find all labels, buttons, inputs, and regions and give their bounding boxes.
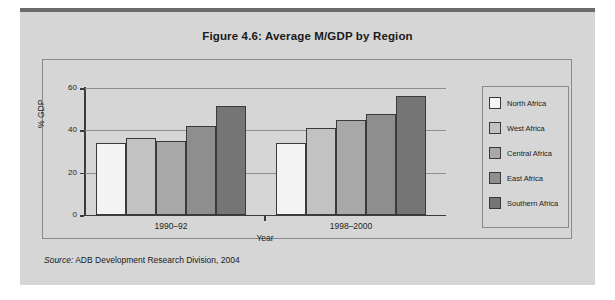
y-tick-mark-60 xyxy=(80,88,84,90)
y-tick-mark-40 xyxy=(80,130,84,132)
y-tick-label-0: 0 xyxy=(57,210,77,219)
y-tick-label-20: 20 xyxy=(57,168,77,177)
bar-southern-africa-1998-2000 xyxy=(396,96,426,215)
gridline-60 xyxy=(85,88,446,89)
bar-east-africa-1990-92 xyxy=(186,126,216,215)
y-tick-mark-20 xyxy=(80,173,84,175)
bar-east-africa-1998-2000 xyxy=(366,114,396,215)
y-axis-line xyxy=(84,87,86,216)
chart-plot: % GDP Year 02040601990–921998–2000 xyxy=(0,0,615,300)
y-axis-title: % GDP xyxy=(36,100,46,128)
x-category-label-1: 1990–92 xyxy=(96,221,246,231)
x-axis-title: Year xyxy=(235,233,295,243)
bar-north-africa-1998-2000 xyxy=(276,143,306,215)
bar-southern-africa-1990-92 xyxy=(216,106,246,215)
bar-central-africa-1998-2000 xyxy=(336,120,366,215)
bar-west-africa-1998-2000 xyxy=(306,128,336,215)
bar-west-africa-1990-92 xyxy=(126,138,156,215)
bar-north-africa-1990-92 xyxy=(96,143,126,215)
y-tick-mark-0 xyxy=(80,215,84,217)
x-axis-center-tick xyxy=(264,216,266,221)
y-tick-label-40: 40 xyxy=(57,125,77,134)
y-tick-label-60: 60 xyxy=(57,83,77,92)
x-category-label-2: 1998–2000 xyxy=(276,221,426,231)
bar-central-africa-1990-92 xyxy=(156,141,186,215)
